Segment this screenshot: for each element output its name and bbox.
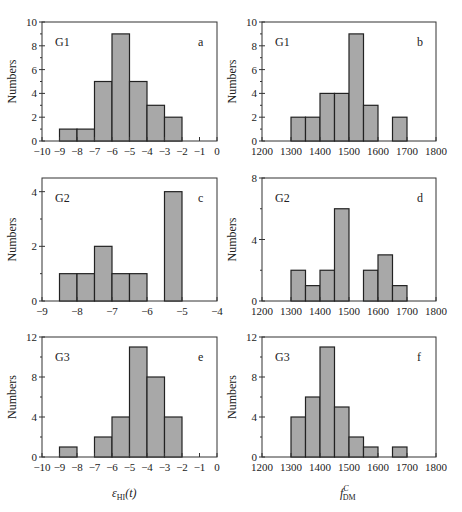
histogram-bar: [378, 255, 393, 301]
x-tick-label: −6: [106, 461, 118, 473]
y-tick-label: 0: [32, 135, 38, 147]
histogram-bar: [60, 129, 78, 141]
y-tick-label: 12: [26, 331, 37, 343]
y-tick-label: 10: [26, 16, 38, 28]
y-axis-label: Numbers: [225, 217, 239, 261]
y-tick-label: 2: [32, 111, 38, 123]
x-tick-label: −2: [176, 145, 188, 157]
x-axis-label-left: εHI(t): [112, 486, 137, 502]
x-tick-label: −5: [124, 145, 136, 157]
x-tick-label: −9: [36, 305, 48, 317]
histogram-bar: [320, 93, 335, 141]
x-tick-label: −4: [141, 461, 153, 473]
x-tick-label: 1700: [396, 461, 419, 473]
histogram-bar: [60, 447, 78, 457]
histogram-bar: [393, 286, 408, 301]
histogram-bar: [77, 274, 95, 301]
x-tick-label: −8: [71, 461, 83, 473]
histogram-bar: [335, 209, 350, 301]
x-tick-label: −5: [124, 461, 136, 473]
x-tick-label: −1: [194, 461, 206, 473]
panel-f: 120013001400150016001700180004812Numbers…: [225, 331, 448, 473]
x-tick-label: −8: [71, 305, 83, 317]
histogram-bar: [112, 34, 130, 141]
panel-b: 12001300140015001600170018000246810Numbe…: [225, 16, 448, 157]
y-tick-label: 4: [252, 234, 258, 246]
x-tick-label: 1300: [280, 305, 303, 317]
y-tick-label: 4: [32, 186, 38, 198]
histogram-bar: [147, 377, 165, 457]
histogram-bar: [306, 117, 321, 141]
histogram-bar: [130, 347, 148, 457]
x-tick-label: −7: [89, 145, 101, 157]
y-tick-label: 12: [246, 331, 257, 343]
x-tick-label: 1800: [425, 145, 448, 157]
y-tick-label: 4: [252, 411, 258, 423]
y-tick-label: 6: [32, 64, 38, 76]
y-axis-label: Numbers: [5, 59, 19, 103]
x-tick-label: −2: [176, 461, 188, 473]
panel-letter: c: [198, 191, 203, 205]
x-tick-label: 1600: [367, 461, 390, 473]
y-tick-label: 2: [252, 111, 258, 123]
x-tick-label: 1500: [338, 305, 361, 317]
y-tick-label: 8: [32, 40, 38, 52]
histogram-bar: [147, 105, 165, 141]
histogram-bar: [349, 34, 364, 141]
histogram-bar: [77, 129, 95, 141]
x-tick-label: −3: [159, 145, 171, 157]
panel-d: 1200130014001500160017001800048NumbersG2…: [225, 172, 448, 317]
x-tick-label: −6: [106, 145, 118, 157]
y-tick-label: 8: [32, 371, 38, 383]
histogram-bar: [320, 347, 335, 457]
x-tick-label: 1700: [396, 145, 419, 157]
histogram-bar: [349, 437, 364, 457]
x-tick-label: −9: [54, 461, 66, 473]
histogram-bar: [335, 93, 350, 141]
x-tick-label: 1600: [367, 305, 390, 317]
y-axis-label: Numbers: [5, 217, 19, 261]
x-tick-label: −4: [141, 145, 153, 157]
histogram-bar: [95, 246, 113, 301]
histogram-bar: [60, 274, 78, 301]
y-tick-label: 0: [252, 135, 258, 147]
panel-letter: e: [198, 350, 203, 364]
x-tick-label: 0: [214, 461, 220, 473]
histogram-bar: [165, 192, 183, 301]
x-tick-label: −7: [89, 461, 101, 473]
group-label: G2: [55, 191, 70, 205]
panel-a: −10−9−8−7−6−5−4−3−2−100246810NumbersG1a: [5, 16, 220, 157]
panel-letter: f: [417, 350, 421, 364]
y-tick-label: 0: [252, 451, 258, 463]
group-label: G2: [275, 191, 290, 205]
panel-e: −10−9−8−7−6−5−4−3−2−1004812NumbersG3e: [5, 331, 220, 473]
y-tick-label: 0: [252, 295, 258, 307]
x-tick-label: −4: [211, 305, 223, 317]
y-tick-label: 8: [252, 172, 258, 184]
x-tick-label: −8: [71, 145, 83, 157]
histogram-bar: [95, 82, 113, 142]
y-axis-label: Numbers: [225, 59, 239, 103]
histogram-bar: [393, 117, 408, 141]
x-tick-label: 0: [214, 145, 220, 157]
x-tick-label: −5: [176, 305, 188, 317]
x-tick-label: −3: [159, 461, 171, 473]
x-tick-label: 1800: [425, 461, 448, 473]
histogram-bar: [112, 417, 130, 457]
x-tick-label: 1500: [338, 461, 361, 473]
x-tick-label: −1: [194, 145, 206, 157]
y-tick-label: 0: [32, 295, 38, 307]
panel-letter: b: [417, 35, 423, 49]
y-tick-label: 0: [32, 451, 38, 463]
y-tick-label: 10: [246, 16, 258, 28]
y-tick-label: 4: [32, 411, 38, 423]
histogram-bar: [364, 447, 379, 457]
panel-letter: d: [417, 191, 423, 205]
y-tick-label: 6: [252, 64, 258, 76]
histogram-figure: −10−9−8−7−6−5−4−3−2−100246810NumbersG1a1…: [0, 0, 462, 512]
panel-letter: a: [198, 35, 204, 49]
histogram-bar: [364, 270, 379, 301]
x-tick-label: 1700: [396, 305, 419, 317]
group-label: G3: [275, 350, 290, 364]
x-tick-label: 1400: [309, 305, 332, 317]
